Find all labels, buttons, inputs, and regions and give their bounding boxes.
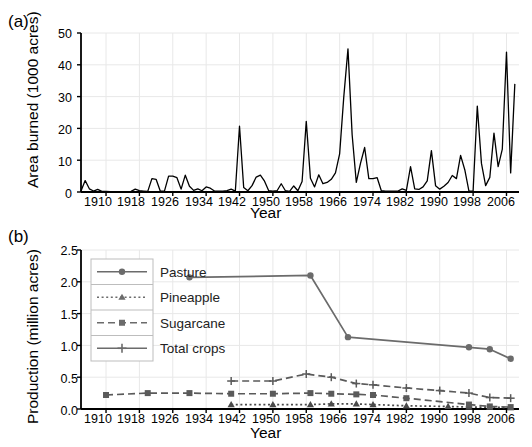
panel-a-xtick-1966: 1966 — [315, 195, 351, 209]
panel-b-ytick-15: 1.5 — [38, 308, 78, 322]
panel-a-ytick-10: 10 — [42, 155, 72, 169]
panel-a-ytick-40: 40 — [42, 59, 72, 73]
panel-b-xtick-1926: 1926 — [147, 412, 183, 426]
panel-a-xtick-1958: 1958 — [281, 195, 317, 209]
panel-a-xtick-1982: 1982 — [382, 195, 418, 209]
panel-a-ytick-50: 50 — [42, 27, 72, 41]
panel-b-ytick-10: 1.0 — [38, 340, 78, 354]
legend-label-pineapple: Pineapple — [160, 290, 220, 305]
panel-b-xtick-1998: 1998 — [449, 412, 485, 426]
panel-b-label: (b) — [8, 227, 29, 247]
panel-b-ytick-20: 2.0 — [38, 276, 78, 290]
panel-a-xtick-1926: 1926 — [147, 195, 183, 209]
legend-label-pasture: Pasture — [160, 265, 207, 280]
panel-b-xtick-1982: 1982 — [382, 412, 418, 426]
panel-a-xtick-1950: 1950 — [248, 195, 284, 209]
panel-b-xtick-1990: 1990 — [416, 412, 452, 426]
panel-a-y-axis-title: Area burned (1000 acres) — [24, 11, 42, 188]
panel-b-xtick-1910: 1910 — [80, 412, 116, 426]
panel-b-legend: PasturePineappleSugarcaneTotal crops — [91, 259, 226, 361]
panel-b-axes — [77, 250, 519, 413]
panel-a-xtick-1934: 1934 — [181, 195, 217, 209]
legend-label-sugarcane: Sugarcane — [160, 316, 225, 331]
panel-a-xtick-1998: 1998 — [449, 195, 485, 209]
panel-b-xtick-1958: 1958 — [281, 412, 317, 426]
panel-b-gridlines — [81, 250, 519, 409]
panel-b-ytick-05: 0.5 — [38, 372, 78, 386]
panel-b-xtick-1918: 1918 — [113, 412, 149, 426]
panel-b-xtick-1974: 1974 — [349, 412, 385, 426]
panel-b-xtick-2006: 2006 — [483, 412, 519, 426]
panel-a-ytick-0: 0 — [42, 187, 72, 201]
legend-label-total-crops: Total crops — [160, 341, 226, 356]
panel-a-xtick-1910: 1910 — [80, 195, 116, 209]
panel-a-plot: PasturePineappleSugarcaneTotal crops — [0, 0, 532, 447]
panel-b-x-axis-title: Year — [250, 424, 281, 442]
panel-b-ytick-25: 2.5 — [38, 244, 78, 258]
panel-a-axes — [77, 33, 519, 196]
panel-a-xtick-2006: 2006 — [483, 195, 519, 209]
panel-a-xtick-1974: 1974 — [349, 195, 385, 209]
panel-b-data-series — [103, 272, 515, 410]
panel-b-xtick-1950: 1950 — [248, 412, 284, 426]
panel-a-gridlines — [81, 33, 519, 192]
panel-b-ytick-00: 0.0 — [38, 404, 78, 418]
panel-b-xtick-1934: 1934 — [181, 412, 217, 426]
panel-a-ytick-20: 20 — [42, 123, 72, 137]
panel-a-xtick-1990: 1990 — [416, 195, 452, 209]
figure-container: (a) Area burned (1000 acres) Year 0 10 2… — [0, 0, 532, 447]
panel-a-data-line — [81, 49, 515, 192]
panel-b-xtick-1966: 1966 — [315, 412, 351, 426]
panel-a-ytick-30: 30 — [42, 91, 72, 105]
panel-a-xtick-1918: 1918 — [113, 195, 149, 209]
panel-b-xtick-1942: 1942 — [214, 412, 250, 426]
panel-a-xtick-1942: 1942 — [214, 195, 250, 209]
